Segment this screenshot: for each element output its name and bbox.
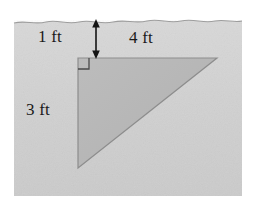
vertical-edge-dimension-label: 3 ft xyxy=(26,101,50,118)
depth-dimension-label: 1 ft xyxy=(38,28,62,45)
top-edge-dimension-label: 4 ft xyxy=(129,29,153,46)
figure-container: 1 ft 4 ft 3 ft xyxy=(0,0,253,208)
